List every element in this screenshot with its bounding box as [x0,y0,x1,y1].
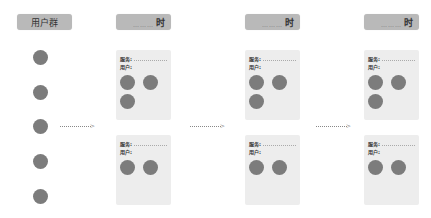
user-circle [368,94,383,109]
time-suffix: 时 [156,16,165,29]
flow-arrow-2: > [190,123,225,129]
service-value-blank [382,60,415,61]
service-card: 服务: 用户: [245,135,300,205]
time-placeholder-dots: ……… [262,21,283,28]
user-label: 用户: [249,148,261,156]
arrow-head-icon: > [90,123,95,129]
user-circle [120,160,135,175]
service-value-blank [263,60,296,61]
user-row: 用户: [249,63,296,71]
service-row: 服务: [120,55,167,63]
service-value-blank [382,145,415,146]
card-users [249,160,297,179]
service-card: 服务: 用户: [364,135,419,205]
user-row: 用户: [249,148,296,156]
user-row: 用户: [368,148,415,156]
service-row: 服务: [368,55,415,63]
time-header-2: ……… 时 [245,14,300,30]
user-circle [249,94,264,109]
user-circle [33,50,48,65]
arrow-line [316,126,347,127]
card-users [249,75,297,113]
user-label: 用户: [249,63,261,71]
time-header-1: ……… 时 [116,14,171,30]
arrow-head-icon: > [220,123,225,129]
arrow-head-icon: > [346,123,351,129]
service-row: 服务: [368,140,415,148]
user-circle [143,75,158,90]
card-users [120,160,168,179]
service-row: 服务: [249,140,296,148]
user-group-header: 用户群 [17,14,72,30]
flow-arrow-1: > [60,123,95,129]
service-card: 服务: 用户: [245,50,300,120]
service-card: 服务: 用户: [116,50,171,120]
flow-arrow-3: > [316,123,351,129]
service-row: 服务: [120,140,167,148]
user-circle [249,160,264,175]
service-label: 服务: [368,55,380,63]
card-users [368,75,416,113]
user-circle [143,160,158,175]
service-row: 服务: [249,55,296,63]
service-card: 服务: 用户: [364,50,419,120]
time-placeholder-dots: ……… [381,21,402,28]
time-suffix: 时 [404,16,413,29]
service-label: 服务: [120,55,132,63]
time-placeholder-dots: ……… [133,21,154,28]
service-value-blank [263,145,296,146]
user-circle [33,119,48,134]
service-label: 服务: [368,140,380,148]
user-circle [33,154,48,169]
user-circle [368,160,383,175]
user-group-title: 用户群 [31,16,58,29]
arrow-line [60,126,91,127]
time-header-3: ……… 时 [364,14,419,30]
user-circle [33,85,48,100]
user-row: 用户: [120,63,167,71]
user-row: 用户: [120,148,167,156]
service-value-blank [134,145,167,146]
user-label: 用户: [120,148,132,156]
user-circle [120,94,135,109]
user-circle [368,75,383,90]
service-value-blank [134,60,167,61]
user-circle [33,189,48,204]
service-label: 服务: [249,55,261,63]
user-circle [391,160,406,175]
user-label: 用户: [368,63,380,71]
user-circle [249,75,264,90]
service-label: 服务: [249,140,261,148]
card-users [368,160,416,179]
user-label: 用户: [368,148,380,156]
user-row: 用户: [368,63,415,71]
user-circle [120,75,135,90]
user-circle [272,160,287,175]
user-circle [272,75,287,90]
service-card: 服务: 用户: [116,135,171,205]
arrow-line [190,126,221,127]
card-users [120,75,168,113]
service-label: 服务: [120,140,132,148]
user-label: 用户: [120,63,132,71]
user-circle [391,75,406,90]
time-suffix: 时 [285,16,294,29]
